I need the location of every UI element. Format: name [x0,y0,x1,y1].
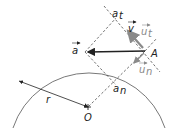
normal-unit-vector [134,53,144,63]
radius-line [19,81,88,107]
label-a-vector: a [72,43,80,56]
svg-text:O: O [84,112,92,123]
svg-text:a: a [72,45,78,56]
label-a-t: a t [112,8,124,21]
svg-text:t: t [119,10,124,21]
svg-text:a: a [113,83,119,94]
svg-text:u: u [139,64,145,75]
svg-text:n: n [120,85,126,96]
svg-text:n: n [146,66,152,77]
label-r: r [46,94,51,105]
svg-text:u: u [141,26,147,37]
svg-text:t: t [148,28,153,39]
svg-text:a: a [112,8,118,19]
dashed-a-to-at [85,18,116,52]
svg-text:r: r [46,94,51,105]
label-v: v [128,22,136,34]
svg-text:v: v [128,23,135,34]
dashed-A-to-O [88,51,145,107]
label-u-n: u n [139,63,152,77]
acceleration-vector [88,51,145,52]
label-a-n: a n [113,83,126,96]
diagram-canvas: a a t a n v u t A u n r O [0,0,170,133]
label-O: O [84,112,92,123]
dashed-a-to-an [85,52,116,85]
svg-text:A: A [150,48,158,59]
label-u-t: u t [141,25,153,39]
label-A: A [150,48,158,59]
